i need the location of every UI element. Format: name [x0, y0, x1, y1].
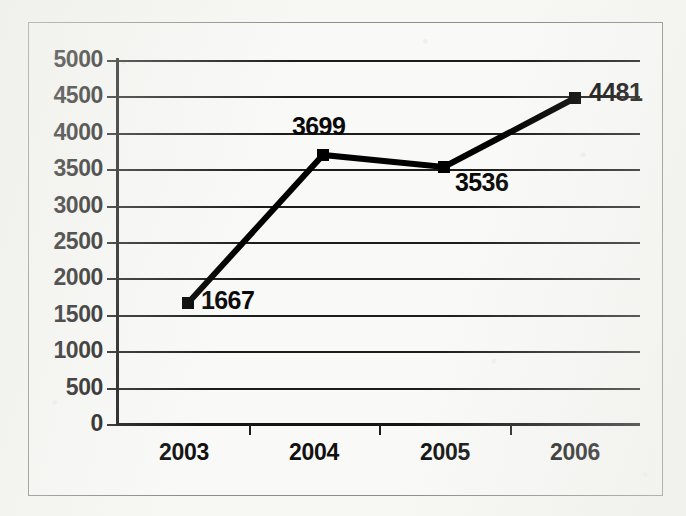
- x-tick-mark: [379, 424, 381, 435]
- y-tick-label: 2500: [7, 230, 103, 253]
- gridline: [118, 169, 640, 171]
- x-tick-label: 2006: [515, 441, 635, 464]
- scanned-page-background: 5000 4500 4000 3500 3000 2500 2000 1500 …: [0, 0, 686, 516]
- y-axis-tick-labels: 5000 4500 4000 3500 3000 2500 2000 1500 …: [0, 0, 103, 516]
- data-label: 4481: [589, 80, 642, 105]
- data-label: 3536: [455, 170, 508, 195]
- y-tick-label: 3000: [7, 194, 103, 217]
- y-tick-label: 4500: [7, 84, 103, 107]
- y-tick-label: 3500: [7, 157, 103, 180]
- gridline: [118, 351, 640, 353]
- y-tick-label: 500: [7, 376, 103, 399]
- y-tick-label: 0: [7, 412, 103, 435]
- plot-area: [118, 60, 640, 424]
- y-tick-label: 5000: [7, 48, 103, 71]
- gridline: [118, 60, 640, 62]
- x-tick-mark: [249, 424, 251, 435]
- gridline: [118, 242, 640, 244]
- gridline: [118, 96, 640, 98]
- gridline: [118, 206, 640, 208]
- y-tick-label: 4000: [7, 121, 103, 144]
- x-tick-label: 2005: [385, 441, 505, 464]
- gridline: [118, 133, 640, 135]
- y-axis-line: [116, 58, 119, 426]
- gridline: [118, 388, 640, 390]
- data-label: 3699: [292, 114, 345, 139]
- x-tick-label: 2004: [254, 441, 374, 464]
- y-tick-label: 2000: [7, 266, 103, 289]
- gridline: [118, 315, 640, 317]
- data-label: 1667: [201, 288, 254, 313]
- x-tick-label: 2003: [124, 441, 244, 464]
- y-tick-label: 1000: [7, 339, 103, 362]
- y-tick-label: 1500: [7, 303, 103, 326]
- gridline: [118, 278, 640, 280]
- x-tick-mark: [510, 424, 512, 435]
